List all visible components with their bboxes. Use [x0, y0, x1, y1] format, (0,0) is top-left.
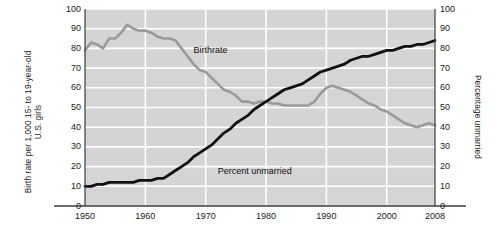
series-label-percent-unmarried: Percent unmarried: [218, 166, 292, 176]
y-axis-left-tick: 90: [57, 24, 81, 33]
y-axis-left-tick: 50: [57, 103, 81, 112]
y-axis-right-tick: 80: [440, 44, 466, 53]
y-axis-left-tick: 20: [57, 162, 81, 171]
chart-container: Birth rate per 1,000 15- to 19-year-old …: [0, 0, 499, 246]
y-axis-left-tick: 80: [57, 44, 81, 53]
x-axis-tick: 1990: [308, 212, 344, 221]
y-axis-right-tick: 100: [440, 5, 466, 14]
x-axis-tick: 1960: [127, 212, 163, 221]
y-axis-left-tick: 0: [57, 202, 81, 211]
x-axis-tick: 2000: [369, 212, 405, 221]
x-axis-tick: 2008: [417, 212, 453, 221]
y-axis-right-tick: 0: [440, 202, 466, 211]
y-axis-right-tick: 50: [440, 103, 466, 112]
y-axis-left-tick: 40: [57, 123, 81, 132]
y-axis-right-tick: 20: [440, 162, 466, 171]
y-axis-left-tick: 70: [57, 64, 81, 73]
y-axis-left-tick: 60: [57, 83, 81, 92]
y-axis-right-tick: 90: [440, 24, 466, 33]
x-axis-tick: 1970: [188, 212, 224, 221]
series-label-birthrate: Birthrate: [194, 45, 228, 55]
y-axis-right-tick: 40: [440, 123, 466, 132]
y-axis-right-tick: 60: [440, 83, 466, 92]
x-axis-tick: 1950: [67, 212, 103, 221]
x-axis-tick: 1980: [248, 212, 284, 221]
y-axis-left-tick: 30: [57, 142, 81, 151]
y-axis-left-tick: 100: [57, 5, 81, 14]
y-axis-right-tick: 70: [440, 64, 466, 73]
y-axis-right-tick: 10: [440, 182, 466, 191]
y-axis-right-tick: 30: [440, 142, 466, 151]
y-axis-left-tick: 10: [57, 182, 81, 191]
